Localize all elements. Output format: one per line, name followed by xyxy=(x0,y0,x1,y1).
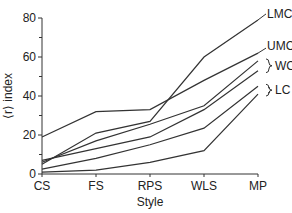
x-axis-title: Style xyxy=(137,195,164,209)
line-chart: 020406080CSFSRPSWLSMP LMCUMCWCLC Style ⟨… xyxy=(0,0,292,213)
y-tick-label: 80 xyxy=(23,11,37,25)
x-tick-label: CS xyxy=(34,179,51,193)
y-axis-title: ⟨r⟩ index xyxy=(1,73,15,119)
x-tick-label: WLS xyxy=(191,179,217,193)
x-tick-label: MP xyxy=(249,179,267,193)
label-leader xyxy=(258,48,266,53)
series-label: LMC xyxy=(267,7,292,21)
bracket-icon xyxy=(266,59,272,73)
series-lines xyxy=(42,20,258,172)
series-line xyxy=(42,94,258,172)
y-tick-label: 20 xyxy=(23,128,37,142)
x-tick-label: FS xyxy=(88,179,103,193)
y-tick-label: 60 xyxy=(23,50,37,64)
label-leader xyxy=(258,14,266,20)
series-line xyxy=(42,71,258,161)
series-label: WC xyxy=(275,59,292,73)
series-label: UMC xyxy=(267,39,292,53)
series-labels: LMCUMCWCLC xyxy=(258,7,292,97)
y-tick-label: 40 xyxy=(23,89,37,103)
series-line xyxy=(42,20,258,164)
bracket-icon xyxy=(266,84,272,96)
series-label: LC xyxy=(275,83,291,97)
x-tick-label: RPS xyxy=(138,179,163,193)
